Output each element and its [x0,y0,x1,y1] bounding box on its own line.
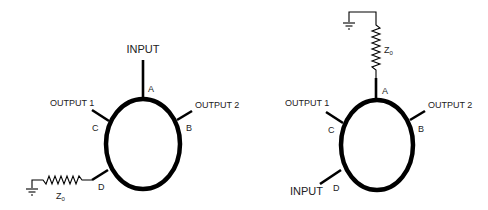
port-c-label: C [92,123,99,133]
port-c-stub [92,110,109,121]
ring-coupler [106,99,180,189]
port-a-label: A [148,84,154,94]
port-c-label: C [328,125,335,135]
input-label: INPUT [290,185,323,197]
input-label: INPUT [127,43,160,55]
port-b-stub [410,111,425,120]
output1-label: OUTPUT 1 [50,98,94,108]
port-d-stub [320,170,341,184]
port-c-stub [326,112,343,123]
ring-coupler [341,100,413,190]
resistor-icon [32,176,92,188]
hybrid-ring-diagrams: INPUT A OUTPUT 1 C OUTPUT 2 B D Z0 A Z0 [0,0,488,210]
output1-label: OUTPUT 1 [285,98,329,108]
z0-label: Z0 [56,191,66,202]
port-b-label: B [186,123,192,133]
port-d-label: D [98,182,105,192]
ground-icon [26,189,38,195]
port-b-stub [177,111,192,120]
ground-icon [343,23,355,29]
left-diagram: INPUT A OUTPUT 1 C OUTPUT 2 B D Z0 [26,43,239,202]
output2-label: OUTPUT 2 [195,100,239,110]
port-b-label: B [418,124,424,134]
z0-label: Z0 [384,45,394,56]
output2-label: OUTPUT 2 [428,100,472,110]
port-d-stub [92,170,108,180]
right-diagram: A Z0 OUTPUT 1 C OUTPUT 2 B INPUT D [285,12,472,197]
port-a-label: A [382,86,388,96]
resistor-icon [349,12,380,78]
port-d-label: D [333,183,340,193]
